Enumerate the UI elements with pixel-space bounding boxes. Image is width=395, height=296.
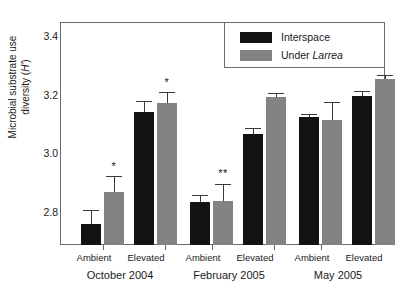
bar-feb2005-ambient-interspace xyxy=(190,202,210,245)
legend: Interspace Under Larrea xyxy=(224,22,385,68)
bar-oct2004-ambient-under-larrea xyxy=(104,192,124,245)
y-tick-label-2.8: 2.8 xyxy=(43,206,58,218)
errorbar-oct2004-ambient-under-larrea xyxy=(114,176,115,192)
bar-oct2004-ambient-interspace xyxy=(81,224,101,245)
errorbar-oct2004-ambient-interspace xyxy=(91,210,92,224)
y-tick-label-3.4: 3.4 xyxy=(43,30,58,42)
x-label-may2005-elevated: Elevated xyxy=(346,252,383,263)
errorcap-may2005-ambient-interspace xyxy=(301,114,317,115)
errorcap-oct2004-elevated-interspace xyxy=(136,101,152,102)
y-axis-label-line1: Microbial substrate use xyxy=(7,36,18,139)
errorcap-may2005-elevated-under-larrea xyxy=(377,75,393,76)
errorcap-may2005-elevated-interspace xyxy=(354,91,370,92)
errorcap-oct2004-ambient-interspace xyxy=(83,210,99,211)
x-label-oct2004-ambient: Ambient xyxy=(77,252,112,263)
x-group-title-oct2004: October 2004 xyxy=(87,269,154,281)
legend-item-under-larrea: Under Larrea xyxy=(240,47,384,63)
bar-oct2004-elevated-under-larrea xyxy=(157,103,177,245)
y-axis-ticks: 3.4 3.2 3.0 2.8 xyxy=(24,0,58,296)
bar-oct2004-elevated-interspace xyxy=(134,112,154,245)
x-label-oct2004-elevated: Elevated xyxy=(128,252,165,263)
y-tick-label-3.2: 3.2 xyxy=(43,89,58,101)
x-label-may2005-ambient: Ambient xyxy=(295,252,330,263)
bar-may2005-elevated-under-larrea xyxy=(375,79,395,245)
legend-item-interspace: Interspace xyxy=(240,29,384,45)
bar-feb2005-ambient-under-larrea xyxy=(213,201,233,245)
errorcap-oct2004-ambient-under-larrea xyxy=(106,176,122,177)
x-group-title-feb2005: February 2005 xyxy=(193,269,265,281)
x-tick-mark-feb2005 xyxy=(212,245,213,250)
legend-label-larrea-italic: Larrea xyxy=(313,49,343,61)
x-label-feb2005-ambient: Ambient xyxy=(186,252,221,263)
x-label-feb2005-elevated: Elevated xyxy=(237,252,274,263)
x-tick-mark-separator-2 xyxy=(274,245,275,250)
bar-feb2005-elevated-under-larrea xyxy=(266,97,286,245)
legend-label-interspace: Interspace xyxy=(281,31,330,43)
x-tick-mark-oct2004 xyxy=(103,245,104,250)
significance-marker-oct2004-ambient: * xyxy=(112,162,117,171)
x-group-title-may2005: May 2005 xyxy=(314,269,362,281)
errorcap-oct2004-elevated-under-larrea xyxy=(159,92,175,93)
significance-marker-oct2004-elevated: * xyxy=(165,78,170,87)
errorbar-oct2004-elevated-under-larrea xyxy=(167,92,168,103)
errorbar-feb2005-ambient-interspace xyxy=(200,195,201,202)
errorbar-may2005-ambient-under-larrea xyxy=(332,102,333,120)
x-tick-mark-may2005 xyxy=(321,245,322,250)
legend-swatch-under-larrea xyxy=(240,50,272,61)
bar-may2005-ambient-under-larrea xyxy=(322,120,342,245)
errorcap-feb2005-ambient-interspace xyxy=(192,195,208,196)
bar-may2005-ambient-interspace xyxy=(299,117,319,245)
errorcap-may2005-ambient-under-larrea xyxy=(324,102,340,103)
legend-label-under-larrea: Under Larrea xyxy=(281,49,343,61)
legend-swatch-interspace xyxy=(240,32,272,43)
errorbar-oct2004-elevated-interspace xyxy=(144,101,145,112)
significance-marker-feb2005-ambient: ** xyxy=(218,169,228,178)
errorcap-feb2005-elevated-interspace xyxy=(245,128,261,129)
bar-may2005-elevated-interspace xyxy=(352,96,372,245)
errorcap-feb2005-ambient-under-larrea xyxy=(215,184,231,185)
y-tick-label-3.0: 3.0 xyxy=(43,147,58,159)
legend-label-under-prefix: Under xyxy=(281,49,313,61)
errorbar-feb2005-ambient-under-larrea xyxy=(223,184,224,201)
x-tick-mark-separator-1 xyxy=(165,245,166,250)
bar-feb2005-elevated-interspace xyxy=(243,134,263,245)
errorcap-feb2005-elevated-under-larrea xyxy=(268,93,284,94)
